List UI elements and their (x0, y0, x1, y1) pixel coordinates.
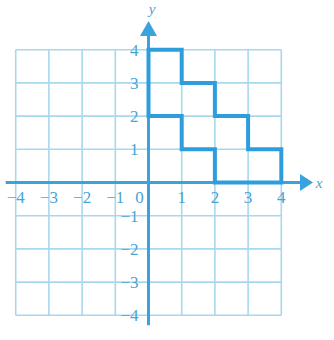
y-tick-label: 2 (130, 107, 139, 126)
x-tick-label: 1 (177, 188, 186, 207)
x-tick-label: 0 (135, 188, 144, 207)
x-tick-label: −4 (7, 188, 26, 207)
y-tick-label: 1 (130, 140, 139, 159)
y-axis-label: y (147, 1, 156, 17)
x-axis-label: x (315, 175, 323, 191)
x-tick-label: 4 (277, 188, 286, 207)
x-tick-label: 3 (244, 188, 253, 207)
y-tick-label: −4 (120, 306, 139, 325)
x-tick-label: −1 (106, 188, 124, 207)
y-tick-label: −2 (120, 240, 138, 259)
y-tick-label: −3 (120, 273, 138, 292)
y-tick-label: 3 (130, 74, 139, 93)
y-tick-label: 4 (130, 41, 139, 60)
x-tick-label: −2 (73, 188, 91, 207)
axis-lines (6, 21, 313, 325)
plot-canvas: −4−3−2−101234 −4−3−2−11234 x y (0, 0, 334, 340)
coordinate-plane-figure: −4−3−2−101234 −4−3−2−11234 x y (0, 0, 334, 340)
y-tick-label: −1 (120, 207, 138, 226)
y-axis-arrow-icon (140, 21, 157, 36)
x-axis-arrow-icon (300, 174, 313, 191)
x-tick-label: −3 (40, 188, 58, 207)
x-tick-label: 2 (211, 188, 220, 207)
x-axis-tick-labels: −4−3−2−101234 (7, 188, 286, 207)
